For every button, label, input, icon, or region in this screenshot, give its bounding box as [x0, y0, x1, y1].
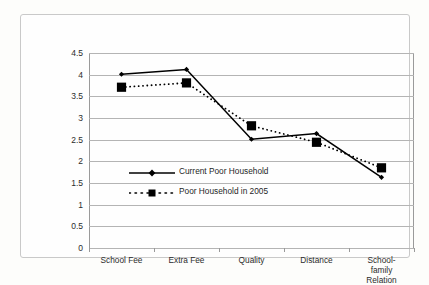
- data-point-marker: [312, 138, 321, 147]
- x-axis-category-label: Extra Fee: [169, 255, 205, 265]
- x-axis-category-label: School-family Relation: [365, 255, 398, 285]
- y-axis-tick-label: 4: [78, 70, 83, 79]
- plot-area: 00.511.522.533.544.5 School FeeExtra Fee…: [89, 53, 414, 248]
- x-axis-tick: [284, 248, 285, 252]
- y-axis-tick-label: 2.5: [71, 135, 83, 144]
- y-axis-tick-label: 0: [78, 244, 83, 253]
- chart-frame: 00.511.522.533.544.5 School FeeExtra Fee…: [20, 14, 410, 258]
- y-axis-tick-label: 1: [78, 200, 83, 209]
- legend-label-series-1: Poor Household in 2005: [179, 187, 268, 195]
- y-axis-tick-label: 2: [78, 157, 83, 166]
- x-axis-tick: [219, 248, 220, 252]
- data-point-marker: [182, 78, 191, 87]
- y-axis-tick-label: 3: [78, 114, 83, 123]
- y-axis-tick-label: 1.5: [71, 179, 83, 188]
- x-axis-tick: [414, 248, 415, 252]
- data-point-marker: [377, 163, 386, 172]
- gridline: [89, 248, 414, 249]
- chart-legend: Current Poor Household Poor Household in…: [129, 161, 309, 201]
- data-point-marker: [117, 83, 126, 92]
- y-axis-tick-label: 4.5: [71, 49, 83, 58]
- data-point-marker: [119, 72, 124, 77]
- series-layer: [89, 53, 414, 248]
- x-axis-category-label: Quality: [239, 255, 265, 265]
- y-axis-tick-label: 3.5: [71, 92, 83, 101]
- x-axis-category-label: School Fee: [101, 255, 143, 265]
- legend-key-dotted-line-square: [129, 185, 175, 197]
- legend-key-solid-line: [129, 165, 175, 177]
- legend-item-series-0: Current Poor Household: [129, 161, 309, 181]
- legend-label-series-0: Current Poor Household: [179, 167, 268, 175]
- x-axis-tick: [89, 248, 90, 252]
- legend-item-series-1: Poor Household in 2005: [129, 181, 309, 201]
- y-axis-tick-label: 0.5: [71, 222, 83, 231]
- x-axis-tick: [349, 248, 350, 252]
- data-point-marker: [247, 121, 256, 130]
- x-axis-category-label: Distance: [300, 255, 332, 265]
- x-axis-tick: [154, 248, 155, 252]
